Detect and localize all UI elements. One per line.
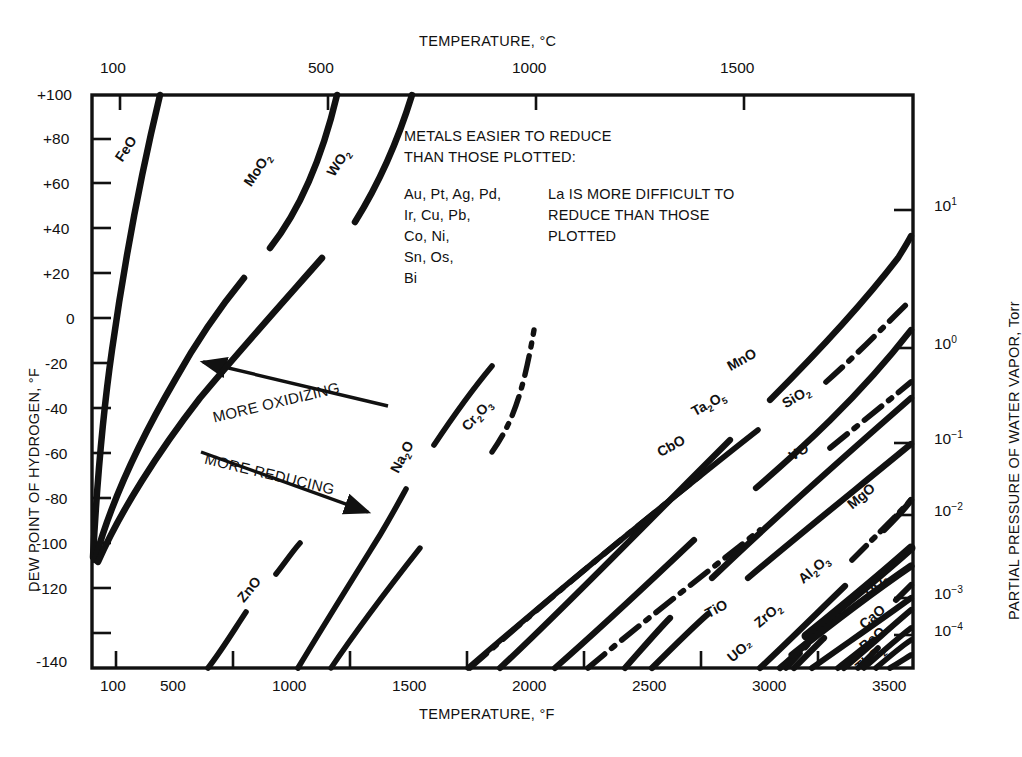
curve-ZnO bbox=[276, 543, 300, 574]
curve-FeO bbox=[93, 95, 160, 557]
curve-Cr2O3 bbox=[331, 548, 420, 668]
arrow-more-reducing bbox=[201, 452, 368, 512]
curve-VO bbox=[830, 382, 911, 448]
direction-arrows bbox=[201, 362, 388, 512]
plot-area bbox=[0, 0, 1022, 757]
curve-SiO2 bbox=[826, 300, 911, 382]
curve-MnO bbox=[500, 440, 730, 668]
curve-MoO2 bbox=[270, 95, 337, 248]
curve-bundle-tail bbox=[812, 598, 911, 668]
curves bbox=[93, 95, 911, 668]
curve-TiO bbox=[652, 614, 708, 668]
curve-WO2 bbox=[98, 258, 322, 562]
curve-Cr2O3 bbox=[492, 330, 534, 452]
arrow-more-oxidizing bbox=[203, 362, 388, 406]
curve-CbO bbox=[712, 398, 911, 578]
curve-ZnO bbox=[208, 612, 246, 668]
chart-figure: TEMPERATURE, °C 100 500 1000 1500 +100 +… bbox=[0, 0, 1022, 757]
curve-WO2 bbox=[355, 95, 412, 222]
curve-Na2O bbox=[434, 366, 492, 445]
curve-TiO bbox=[748, 444, 911, 578]
